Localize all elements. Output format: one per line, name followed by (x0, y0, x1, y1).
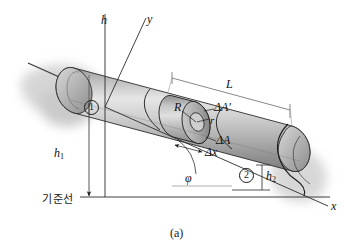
length-element-label: Δx (205, 146, 217, 158)
outer-radius-label: R (174, 101, 181, 113)
h2-label: h2 (266, 170, 276, 184)
h1-subscript: 1 (60, 152, 64, 161)
inner-radius-label: r (210, 115, 214, 126)
h2-subscript: 2 (272, 175, 276, 184)
length-label: L (226, 78, 233, 90)
figure-caption: (a) (170, 226, 183, 241)
station-2-marker: 2 (239, 168, 254, 183)
h-axis-label: h (101, 14, 107, 26)
angle-phi-label: φ (185, 172, 192, 184)
pipe-flow-diagram (0, 0, 356, 252)
datum-line-label: 기준선 (42, 190, 74, 206)
station-1-marker: 1 (84, 100, 99, 115)
area-outer-label: ΔA' (214, 101, 231, 113)
area-inner-label: ΔA (216, 134, 230, 146)
h1-label: h1 (54, 147, 64, 161)
y-axis-label: y (147, 13, 152, 25)
x-axis-label: x (331, 200, 336, 212)
